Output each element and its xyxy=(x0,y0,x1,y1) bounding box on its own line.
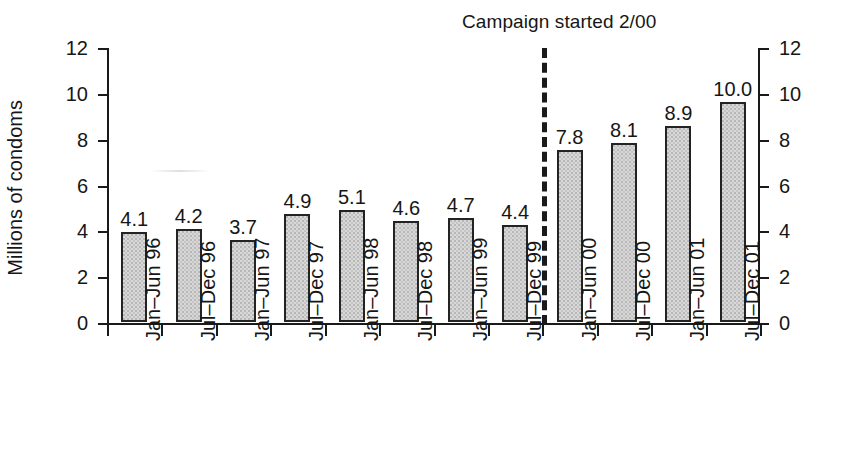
x-axis-label: Jul–Dec 98 xyxy=(415,241,435,341)
x-axis-label: Jan–Jun 00 xyxy=(579,238,599,341)
y-tick-right xyxy=(760,231,769,233)
x-axis-label: Jan–Jun 96 xyxy=(143,238,163,341)
y-tick-right xyxy=(760,48,769,50)
y-tick-right xyxy=(760,140,769,142)
y-tick-label-left: 10 xyxy=(66,84,88,104)
y-tick-label-right: 2 xyxy=(779,267,790,287)
y-tick-label-left: 6 xyxy=(77,176,88,196)
y-tick-label-right: 6 xyxy=(779,176,790,196)
x-axis-label: Jan–Jun 01 xyxy=(687,238,707,341)
y-tick-label-right: 8 xyxy=(779,130,790,150)
campaign-divider-line xyxy=(542,48,547,325)
y-tick-label-left: 2 xyxy=(77,267,88,287)
x-axis-label: Jul–Dec 01 xyxy=(742,241,762,341)
y-tick-left xyxy=(98,140,107,142)
left-axis-spine xyxy=(107,48,109,325)
y-tick-label-left: 8 xyxy=(77,130,88,150)
bar-value-label: 3.7 xyxy=(203,217,283,237)
y-tick-right xyxy=(760,186,769,188)
x-axis-label: Jul–Dec 00 xyxy=(633,241,653,341)
y-tick-label-right: 10 xyxy=(779,84,801,104)
y-tick-label-right: 0 xyxy=(779,313,790,333)
y-tick-label-right: 4 xyxy=(779,221,790,241)
x-axis-label: Jan–Jun 99 xyxy=(470,238,490,341)
y-tick-left xyxy=(98,277,107,279)
y-tick-left xyxy=(98,186,107,188)
y-tick-left xyxy=(98,323,107,325)
y-tick-label-left: 12 xyxy=(66,38,88,58)
campaign-annotation-label: Campaign started 2/00 xyxy=(462,11,656,33)
plot-area: 024681012 024681012 4.14.23.74.95.14.64.… xyxy=(107,48,760,324)
y-tick-left xyxy=(98,231,107,233)
x-axis-label: Jul–Dec 96 xyxy=(198,241,218,341)
y-tick-label-left: 4 xyxy=(77,221,88,241)
y-tick-label-left: 0 xyxy=(77,313,88,333)
x-axis-label: Jul–Dec 99 xyxy=(524,241,544,341)
x-axis-label: Jan–Jun 98 xyxy=(361,238,381,341)
x-axis-label: Jan–Jun 97 xyxy=(252,238,272,341)
x-axis-label: Jul–Dec 97 xyxy=(306,241,326,341)
scan-artifact xyxy=(150,170,210,172)
y-tick-left xyxy=(98,48,107,50)
x-tick xyxy=(107,325,109,336)
y-tick-left xyxy=(98,94,107,96)
chart-figure: Campaign started 2/00 Millions of condom… xyxy=(0,0,861,473)
bar-value-label: 8.1 xyxy=(584,120,664,140)
bar-value-label: 8.9 xyxy=(638,103,718,123)
y-tick-label-right: 12 xyxy=(779,38,801,58)
bar-value-label: 10.0 xyxy=(693,79,773,99)
y-axis-title: Millions of condoms xyxy=(4,100,26,276)
